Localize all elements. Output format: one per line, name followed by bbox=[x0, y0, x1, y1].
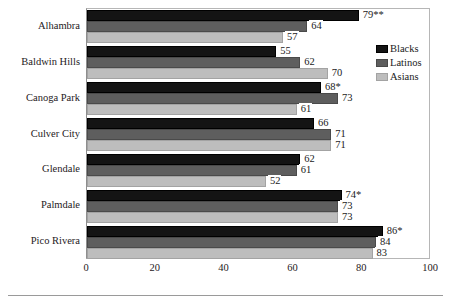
bar-asians-alhambra bbox=[87, 32, 283, 43]
bar-group: 86*8483 bbox=[87, 224, 429, 260]
bar-value-label: 71 bbox=[333, 128, 347, 139]
x-tick-label: 100 bbox=[422, 262, 438, 273]
bar-value-label: 73 bbox=[340, 211, 354, 222]
category-label: Alhambra bbox=[0, 20, 80, 31]
bar-latinos-glendale bbox=[87, 165, 297, 176]
bar-asians-baldwin-hills bbox=[87, 68, 328, 79]
bar-value-label: 73 bbox=[340, 200, 354, 211]
bar-group: 79**6457 bbox=[87, 9, 429, 45]
x-tick-label: 60 bbox=[287, 262, 298, 273]
bar-value-label: 62 bbox=[302, 153, 316, 164]
bar-blacks-palmdale bbox=[87, 190, 342, 201]
x-tick-label: 0 bbox=[83, 262, 88, 273]
legend-label: Blacks bbox=[390, 43, 419, 54]
legend-swatch-icon bbox=[376, 73, 388, 81]
bar-value-label: 62 bbox=[302, 56, 316, 67]
bar-latinos-alhambra bbox=[87, 21, 307, 32]
bar-blacks-glendale bbox=[87, 154, 300, 165]
bar-asians-glendale bbox=[87, 176, 266, 187]
bar-value-label: 71 bbox=[333, 139, 347, 150]
legend-label: Asians bbox=[390, 71, 419, 82]
legend-swatch-icon bbox=[376, 59, 388, 67]
bar-chart-figure: AlhambraBaldwin HillsCanoga ParkCulver C… bbox=[0, 0, 451, 304]
legend-item-blacks: Blacks bbox=[376, 42, 422, 55]
bar-asians-canoga-park bbox=[87, 104, 297, 115]
bottom-divider bbox=[8, 295, 443, 296]
bar-blacks-canoga-park bbox=[87, 82, 321, 93]
category-axis: AlhambraBaldwin HillsCanoga ParkCulver C… bbox=[0, 8, 80, 259]
legend-item-asians: Asians bbox=[376, 70, 422, 83]
bar-value-label: 84 bbox=[378, 236, 392, 247]
bar-asians-pico-rivera bbox=[87, 248, 373, 259]
bar-latinos-culver-city bbox=[87, 129, 331, 140]
category-label: Canoga Park bbox=[0, 92, 80, 103]
bar-value-label: 66 bbox=[316, 117, 330, 128]
bar-value-label: 55 bbox=[278, 45, 292, 56]
x-tick-label: 80 bbox=[356, 262, 367, 273]
category-label: Palmdale bbox=[0, 199, 80, 210]
bar-value-label: 61 bbox=[299, 103, 313, 114]
bar-group: 626152 bbox=[87, 152, 429, 188]
category-label: Culver City bbox=[0, 128, 80, 139]
bar-value-label: 64 bbox=[309, 20, 323, 31]
bar-asians-palmdale bbox=[87, 212, 338, 223]
bar-blacks-baldwin-hills bbox=[87, 46, 276, 57]
x-tick-label: 40 bbox=[218, 262, 229, 273]
bar-value-label: 79** bbox=[361, 9, 385, 20]
bar-group: 68*7361 bbox=[87, 81, 429, 117]
bar-value-label: 86* bbox=[385, 225, 404, 236]
bar-latinos-palmdale bbox=[87, 201, 338, 212]
bar-value-label: 61 bbox=[299, 164, 313, 175]
bar-blacks-culver-city bbox=[87, 118, 314, 129]
legend-swatch-icon bbox=[376, 45, 388, 53]
category-label: Glendale bbox=[0, 163, 80, 174]
x-tick-label: 20 bbox=[150, 262, 161, 273]
legend-label: Latinos bbox=[390, 57, 422, 68]
bar-latinos-baldwin-hills bbox=[87, 57, 300, 68]
bar-asians-culver-city bbox=[87, 140, 331, 151]
bar-group: 667171 bbox=[87, 117, 429, 153]
bar-value-label: 74* bbox=[344, 189, 363, 200]
category-label: Pico Rivera bbox=[0, 235, 80, 246]
bar-value-label: 57 bbox=[285, 31, 299, 42]
bar-value-label: 70 bbox=[330, 67, 344, 78]
bar-group: 74*7373 bbox=[87, 188, 429, 224]
category-label: Baldwin Hills bbox=[0, 56, 80, 67]
bar-value-label: 83 bbox=[375, 247, 389, 258]
legend-item-latinos: Latinos bbox=[376, 56, 422, 69]
bar-value-label: 73 bbox=[340, 92, 354, 103]
bar-value-label: 52 bbox=[268, 175, 282, 186]
bar-blacks-pico-rivera bbox=[87, 226, 383, 237]
x-axis: 020406080100 bbox=[86, 259, 430, 277]
bar-latinos-pico-rivera bbox=[87, 237, 376, 248]
plot-area: BlacksLatinosAsians 79**645755627068*736… bbox=[86, 8, 430, 259]
bar-value-label: 68* bbox=[323, 81, 342, 92]
chart-legend: BlacksLatinosAsians bbox=[374, 41, 424, 85]
